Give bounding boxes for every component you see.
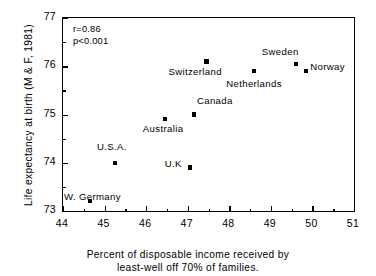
x-axis-tick-label: 44	[42, 217, 82, 229]
data-point-label: U.K	[165, 159, 182, 169]
data-point-marker	[204, 59, 208, 63]
x-axis-title-line-1: Percent of disposable income received by	[0, 248, 376, 261]
data-point-label: Canada	[197, 96, 233, 106]
y-axis-tick	[62, 18, 68, 19]
p-value-text: p<0.001	[73, 36, 108, 48]
x-axis-minor-tick	[209, 209, 210, 213]
data-point-label: Australia	[143, 124, 183, 134]
correlation-text: r=0.86	[73, 24, 108, 36]
data-point-label: Norway	[310, 62, 345, 72]
y-axis-tick	[62, 163, 68, 164]
y-axis-tick-label: 73	[16, 203, 56, 215]
data-point-marker	[192, 112, 196, 116]
data-point-label: U.S.A.	[97, 142, 127, 152]
data-point-label: Netherlands	[226, 79, 282, 89]
x-axis-title-line-2: least-well off 70% of families.	[0, 261, 376, 274]
y-axis-tick-label: 77	[16, 10, 56, 22]
y-axis-tick	[62, 211, 68, 212]
x-axis-tick	[105, 206, 106, 212]
y-axis-tick	[62, 115, 68, 116]
x-axis-tick	[146, 206, 147, 212]
y-axis-tick-label: 74	[16, 155, 56, 167]
y-axis-tick-label: 76	[16, 58, 56, 70]
data-point-label: Sweden	[262, 47, 299, 57]
x-axis-minor-tick	[250, 209, 251, 213]
x-axis-tick-label: 50	[291, 217, 331, 229]
data-point-marker	[113, 161, 117, 165]
y-axis-tick	[62, 66, 68, 67]
x-axis-minor-tick	[84, 209, 85, 213]
y-axis-minor-tick	[62, 42, 66, 43]
x-axis-tick-label: 45	[84, 217, 124, 229]
y-axis-minor-tick	[62, 90, 66, 91]
x-axis-minor-tick	[292, 209, 293, 213]
x-axis-minor-tick	[125, 209, 126, 213]
plot-area: r=0.86 p<0.001 W. GermanyU.S.A.Australia…	[62, 17, 355, 212]
y-axis-minor-tick	[62, 139, 66, 140]
x-axis-tick-label: 51	[333, 217, 373, 229]
data-point-label: W. Germany	[64, 192, 121, 202]
x-axis-tick	[229, 206, 230, 212]
scatter-plot-figure: Life expectancy at birth (M & F, 1981) r…	[0, 0, 376, 276]
data-point-marker	[188, 165, 192, 169]
x-axis-minor-tick	[333, 209, 334, 213]
x-axis-tick-label: 48	[208, 217, 248, 229]
x-axis-tick	[271, 206, 272, 212]
x-axis-tick-label: 47	[167, 217, 207, 229]
x-axis-tick-label: 46	[125, 217, 165, 229]
x-axis-tick	[188, 206, 189, 212]
x-axis-tick-label: 49	[250, 217, 290, 229]
data-point-marker	[304, 69, 308, 73]
stats-annotation: r=0.86 p<0.001	[73, 24, 108, 48]
x-axis-tick	[354, 206, 355, 212]
y-axis-tick-label: 75	[16, 107, 56, 119]
data-point-marker	[252, 69, 256, 73]
x-axis-minor-tick	[167, 209, 168, 213]
x-axis-tick	[312, 206, 313, 212]
x-axis-title: Percent of disposable income received by…	[0, 248, 376, 274]
data-point-marker	[294, 62, 298, 66]
data-point-marker	[163, 117, 167, 121]
data-point-label: Switzerland	[168, 67, 221, 77]
y-axis-minor-tick	[62, 187, 66, 188]
